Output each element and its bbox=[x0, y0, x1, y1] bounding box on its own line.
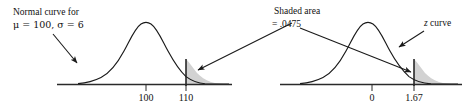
z-curve-label-arrow bbox=[399, 31, 424, 47]
shaded-area-arrow-left bbox=[198, 23, 292, 70]
left-tick-label-110: 110 bbox=[171, 92, 201, 103]
right-tick-label-0: 0 bbox=[362, 92, 382, 103]
right-panel bbox=[280, 23, 462, 92]
right-shaded-tail bbox=[414, 59, 456, 84]
left-normal-curve-path bbox=[78, 23, 229, 85]
shaded-area-annotation-line2: = .0475 bbox=[272, 18, 301, 30]
normal-curve-annotation-line1: Normal curve for bbox=[13, 6, 79, 18]
right-tick-label-167: 1.67 bbox=[399, 92, 429, 103]
normal-curve-label-arrow bbox=[53, 34, 77, 63]
right-z-curve-path bbox=[300, 23, 458, 85]
shaded-area-annotation-line1: Shaded area bbox=[274, 5, 320, 17]
z-curve-annotation: z curve bbox=[424, 17, 451, 29]
z-curve-annotation-text: curve bbox=[428, 18, 451, 28]
normal-curve-figure: Normal curve for μ = 100, σ = 6 Shaded a… bbox=[0, 0, 473, 110]
normal-curve-annotation-line2: μ = 100, σ = 6 bbox=[13, 19, 84, 31]
left-panel bbox=[53, 23, 292, 92]
left-tick-label-100: 100 bbox=[131, 92, 161, 103]
shaded-area-arrow-right bbox=[300, 28, 411, 72]
